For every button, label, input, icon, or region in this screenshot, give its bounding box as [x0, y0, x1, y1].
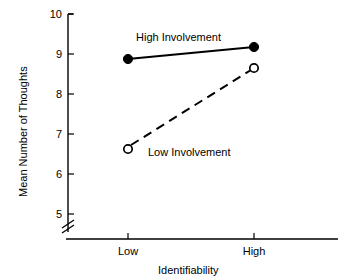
data-point-high-involvement-low	[123, 54, 132, 63]
data-point-low-involvement-low	[124, 145, 132, 153]
y-tick-label-7: 7	[40, 129, 62, 140]
series-line-low-involvement	[131, 70, 251, 145]
x-tick-label-low: Low	[98, 246, 158, 257]
series-line-high-involvement	[128, 47, 254, 59]
y-axis-title: Mean Number of Thoughts	[18, 66, 29, 197]
x-axis-title: Identifiability	[158, 265, 219, 276]
series-label-low-involvement: Low Involvement	[148, 147, 231, 158]
y-tick-label-9: 9	[40, 49, 62, 60]
y-tick-label-10: 10	[40, 9, 62, 20]
series-label-high-involvement: High Involvement	[136, 32, 221, 43]
y-tick-label-5: 5	[40, 209, 62, 220]
y-tick-label-8: 8	[40, 89, 62, 100]
data-point-low-involvement-high	[250, 64, 258, 72]
x-tick-label-high: High	[224, 246, 284, 257]
y-tick-label-6: 6	[40, 169, 62, 180]
line-chart: 10 9 8 7 6 5 Low High Mean Number of Tho…	[0, 0, 345, 279]
data-point-high-involvement-high	[249, 42, 258, 51]
